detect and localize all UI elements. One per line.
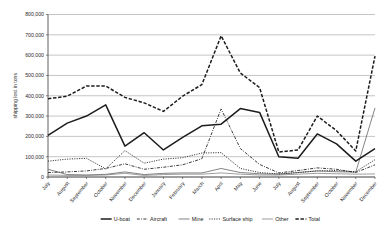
series-line-mine [48,108,375,175]
legend-label-total[interactable]: Total [309,216,320,222]
y-tick-label: 700,000 [25,32,44,38]
x-tick-label: August [286,180,301,197]
y-axis-tick-labels: 0100,000200,000300,000400,000500,000600,… [25,11,44,180]
x-tick-label: June [251,180,263,193]
y-tick-label: 500,000 [25,72,44,78]
y-axis-title-text: shipping lost in tons [12,73,18,119]
x-tick-label: November [108,180,128,202]
chart-legend: U-boatAircraftMineSurface shipOtherTotal [101,216,320,222]
x-tick-label: January [150,180,167,198]
data-series [48,36,375,176]
x-tick-label: May [232,180,243,192]
legend-label-mine[interactable]: Mine [192,216,204,222]
x-tick-label: March [191,180,205,195]
x-tick-label: April [213,180,224,192]
chart-container: 0100,000200,000300,000400,000500,000600,… [0,0,387,237]
x-tick-label: October [323,180,340,198]
x-tick-label: July [271,180,282,191]
x-tick-label: December [358,180,378,202]
y-tick-label: 100,000 [25,154,44,160]
y-tick-label: 0 [41,174,44,180]
x-tick-label: February [168,180,186,200]
legend-label-u-boat[interactable]: U-boat [114,216,131,222]
y-tick-label: 600,000 [25,52,44,58]
y-tick-label: 200,000 [25,133,44,139]
x-tick-label: December [127,180,147,202]
legend-label-surface-ship[interactable]: Surface ship [222,216,252,222]
y-tick-label: 800,000 [25,11,44,17]
x-tick-label: November [339,180,359,202]
x-tick-label: August [55,180,70,197]
x-tick-label: October [92,180,109,198]
legend-label-other[interactable]: Other [275,216,289,222]
chart-axes [46,15,375,180]
y-axis-title: shipping lost in tons [12,73,18,119]
series-line-aircraft [48,109,375,173]
y-tick-label: 400,000 [25,93,44,99]
x-tick-label: July [40,180,51,191]
line-chart: 0100,000200,000300,000400,000500,000600,… [0,0,387,237]
x-tick-label: September [69,180,90,204]
x-axis-tick-labels: JulyAugustSeptemberOctoberNovemberDecemb… [40,180,378,204]
legend-label-aircraft[interactable]: Aircraft [150,216,168,222]
x-tick-label: September [299,180,320,204]
y-tick-label: 300,000 [25,113,44,119]
